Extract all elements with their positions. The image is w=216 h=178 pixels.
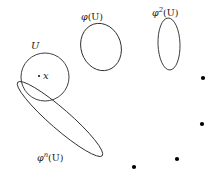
label-point-x: x	[43, 71, 49, 81]
ellipsis-dot	[175, 157, 179, 161]
math-figure: U x φ(U) φ2(U) φn(U)	[0, 0, 216, 178]
label-phi-u-arg: (U)	[88, 11, 103, 22]
point-x-marker	[38, 75, 40, 77]
label-phin-u: φn(U)	[37, 152, 63, 163]
figure-canvas	[0, 0, 216, 178]
set-phi-u-ellipse	[75, 18, 128, 76]
label-phi2-u-base: φ	[152, 7, 159, 18]
label-phi-u: φ(U)	[81, 12, 103, 22]
label-set-u: U	[31, 41, 39, 51]
label-phi2-u-arg: (U)	[163, 7, 178, 18]
set-phi2-u-ellipse	[157, 18, 181, 71]
ellipsis-dot	[132, 165, 136, 169]
label-phin-u-arg: (U)	[48, 152, 63, 163]
label-phin-u-base: φ	[37, 152, 44, 163]
set-phin-u-ellipse	[11, 75, 109, 164]
label-phi2-u: φ2(U)	[152, 7, 178, 18]
ellipsis-dot	[200, 122, 204, 126]
ellipsis-dot	[201, 76, 205, 80]
label-phi-u-base: φ	[81, 11, 88, 22]
